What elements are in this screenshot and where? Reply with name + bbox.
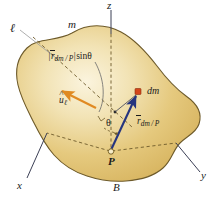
axis-label-y: y <box>201 170 206 181</box>
expression-vector-subscript: dm / P <box>55 54 74 63</box>
point-p-marker <box>108 149 113 154</box>
perpendicular-distance-expression: |rdm / P|sinθ <box>48 52 92 62</box>
position-vector-subscript: dm / P <box>141 119 160 128</box>
expression-angle: θ <box>87 51 92 61</box>
point-label-p: P <box>108 156 115 167</box>
position-vector-symbol: r <box>137 117 141 127</box>
axis-line-label-l: ℓ <box>10 22 15 34</box>
mass-element-marker <box>135 89 141 95</box>
figure-rigid-body-angular-momentum: z x y B m ℓ P dm θ rdm / P uℓ |rdm / P|s… <box>0 0 221 202</box>
unit-vector-label: uℓ <box>59 96 67 106</box>
position-vector-label: rdm / P <box>137 117 159 127</box>
expression-trig: sin <box>76 51 87 61</box>
mass-element-label-dm: dm <box>147 86 159 96</box>
unit-vector-subscript: ℓ <box>64 98 67 107</box>
unit-vector-symbol: u <box>59 96 64 106</box>
expression-vector-symbol: r <box>51 52 55 62</box>
body-label-b: B <box>113 182 120 193</box>
mass-label-m: m <box>68 19 76 30</box>
axis-label-x: x <box>17 180 22 191</box>
diagram-canvas <box>0 0 221 202</box>
axis-label-z: z <box>107 0 111 11</box>
angle-label-theta: θ <box>106 118 111 128</box>
